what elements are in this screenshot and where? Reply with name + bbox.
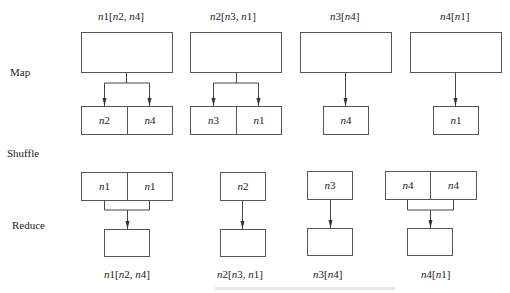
reduce-output-label-2: n2[n3, n1] xyxy=(217,268,263,280)
reduce-output-label-1: n1[n2, n4] xyxy=(104,268,150,280)
reduce-output-label-4: n4[n1] xyxy=(421,268,450,280)
caption-remnant xyxy=(215,287,395,290)
connector-lines xyxy=(0,0,510,293)
reduce-output-label-3: n3[n4] xyxy=(313,268,342,280)
